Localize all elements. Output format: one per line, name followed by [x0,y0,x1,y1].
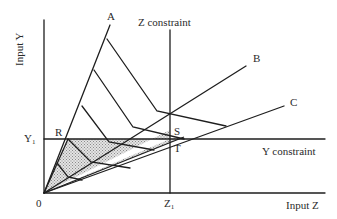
z1-label: Z1 [164,198,174,211]
origin-label: 0 [36,198,42,209]
y-constraint-label: Y constraint [262,146,316,157]
y1-label: Y1 [24,133,35,146]
ray-b-label: B [253,53,260,64]
z-axis-label: Input Z [286,200,319,211]
isoquant-4 [107,39,226,126]
isoquant-diagram [0,0,337,219]
point-t-label: T [174,143,181,154]
ray-c-label: C [290,97,297,108]
z-constraint-label: Z constraint [138,17,191,28]
ray-a-label: A [107,11,115,22]
y-axis-label: Input Y [14,32,25,66]
point-s-label: S [174,126,180,137]
point-r-label: R [55,127,62,138]
